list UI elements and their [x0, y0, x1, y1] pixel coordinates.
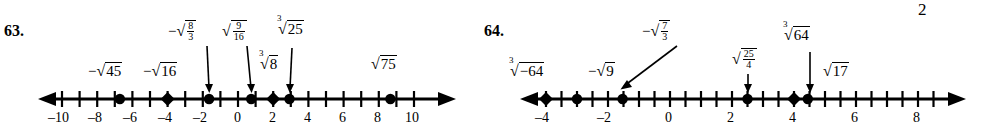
radical-sqrt-8-3: √83: [176, 20, 196, 43]
label-sqrt-9-over-16: √916: [222, 20, 247, 43]
label-neg-sqrt-9: −√9: [588, 62, 615, 80]
radicand: 16: [160, 62, 177, 79]
radical-sign: √: [222, 22, 231, 39]
label-sqrt-25-over-4: √254: [732, 48, 757, 71]
radical-sign: √: [596, 62, 605, 79]
radicand: 64: [793, 26, 810, 43]
fraction-7-3: 73: [661, 21, 668, 42]
fraction-numerator: 7: [661, 21, 668, 31]
radicand: 73: [659, 20, 670, 43]
fraction-denominator: 16: [233, 31, 245, 42]
label-neg-sqrt-7-over-3: −√73: [642, 20, 670, 43]
tick-label-8: 8: [374, 110, 381, 126]
radical-index: 3: [509, 55, 514, 65]
radical-index: 3: [783, 19, 788, 29]
radicand: 45: [105, 62, 122, 79]
fraction-denominator: 3: [661, 31, 668, 42]
radical-cbrt-64: 3√64: [784, 26, 810, 44]
point-neg-sqrt-16: [161, 92, 175, 106]
radical-index: 3: [259, 48, 264, 58]
radicand: 75: [380, 55, 397, 72]
tick-label-4: 4: [304, 110, 311, 126]
label-sqrt-17: √17: [823, 62, 849, 80]
radical-sqrt-45: √45: [96, 62, 122, 80]
tick-label-4: 4: [789, 110, 796, 126]
tick-label-0: 0: [665, 110, 672, 126]
radical-sign: √: [732, 50, 741, 67]
tick-label-6: 6: [851, 110, 858, 126]
tick-label-8: 8: [913, 110, 920, 126]
point-neg-sqrt-9: [572, 94, 582, 104]
radical-sign: √: [96, 62, 105, 79]
tick-label-6: 6: [339, 110, 346, 126]
fraction-25-4: 254: [743, 49, 755, 70]
point-sqrt-25-4: [742, 94, 752, 104]
radical-cbrt-25: 3√25: [278, 20, 304, 38]
tick-label-10: 10: [405, 110, 419, 126]
label-cbrt-8: 3√8: [260, 55, 278, 73]
radical-cbrt-neg64: 3√−64: [510, 62, 544, 80]
minus-sign: −: [642, 23, 650, 39]
point-sqrt-9-16: [246, 94, 256, 104]
tick-label-neg2: –2: [597, 110, 611, 126]
point-neg-sqrt-45: [115, 94, 125, 104]
point-neg-sqrt-7-3: [617, 94, 627, 104]
tick-label-neg8: –8: [88, 110, 102, 126]
fraction-denominator: 4: [743, 59, 755, 70]
radical-sqrt-9: √9: [596, 62, 614, 80]
fraction-numerator: 9: [233, 21, 245, 31]
minus-sign: −: [143, 63, 151, 79]
point-neg-sqrt-8-3: [204, 94, 214, 104]
tick-label-neg4: –4: [535, 110, 549, 126]
tick-label-2: 2: [727, 110, 734, 126]
tick-label-neg10: –10: [48, 110, 69, 126]
label-neg-sqrt-16: −√16: [143, 62, 177, 80]
radical-sqrt-75: √75: [371, 55, 397, 73]
minus-sign: −: [588, 63, 596, 79]
radicand: 17: [832, 62, 849, 79]
radical-index: 3: [277, 13, 282, 23]
fraction-numerator: 8: [187, 21, 194, 31]
radical-sign: √: [823, 62, 832, 79]
fraction-9-16: 916: [233, 21, 245, 42]
radical-sqrt-7-3: √73: [650, 20, 670, 43]
radicand: 9: [605, 62, 615, 79]
radicand: 83: [185, 20, 196, 43]
minus-sign: −: [88, 63, 96, 79]
label-neg-sqrt-45: −√45: [88, 62, 122, 80]
point-sqrt-75: [385, 94, 395, 104]
radicand: 25: [287, 20, 304, 37]
radical-sign: √: [650, 22, 659, 39]
tick-label-neg6: –6: [123, 110, 137, 126]
problem-64-number-line: –4 –2 0 2 4 6 8 3√−64 −√9 −√73 √254 3√64…: [480, 0, 993, 140]
label-sqrt-75: √75: [371, 55, 397, 73]
point-cbrt-25: [284, 94, 294, 104]
tick-label-neg2: –2: [193, 110, 207, 126]
label-cbrt-25: 3√25: [278, 20, 304, 38]
radicand: 254: [741, 48, 757, 71]
minus-sign: −: [168, 23, 176, 39]
radical-sqrt-16: √16: [151, 62, 177, 80]
radical-sign: √: [151, 62, 160, 79]
radical-sqrt-9-16: √916: [222, 20, 247, 43]
tick-label-2: 2: [269, 110, 276, 126]
radicand: −64: [519, 62, 544, 79]
problem-64: 64.: [480, 0, 993, 140]
problem-63: 63.: [0, 0, 470, 140]
label-neg-sqrt-8-over-3: −√83: [168, 20, 196, 43]
radicand: 8: [269, 55, 279, 72]
fraction-numerator: 25: [743, 49, 755, 59]
radical-sqrt-17: √17: [823, 62, 849, 80]
label-cbrt-64: 3√64: [784, 26, 810, 44]
tick-label-neg4: –4: [158, 110, 172, 126]
label-cbrt-neg-64: 3√−64: [510, 62, 544, 80]
tick-label-0: 0: [234, 110, 241, 126]
point-cbrt-neg-64: [539, 92, 553, 106]
point-cbrt-8: [266, 92, 280, 106]
radicand: 916: [231, 20, 247, 43]
radical-sign: √: [371, 55, 380, 72]
point-cbrt-64: [787, 92, 801, 106]
point-sqrt-17: [803, 94, 813, 104]
fraction-8-3: 83: [187, 21, 194, 42]
radical-cbrt-8: 3√8: [260, 55, 278, 73]
